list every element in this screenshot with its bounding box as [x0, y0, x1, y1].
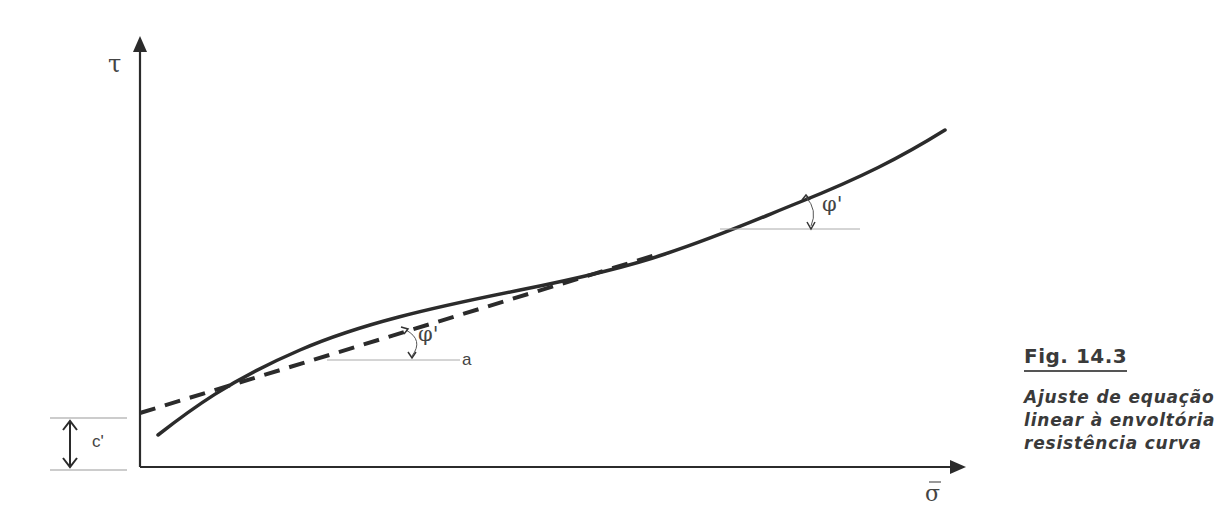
caption-line: Ajuste de equação [1024, 386, 1215, 409]
strength-envelope-curve [158, 130, 945, 435]
caption-line: linear à envoltória [1024, 409, 1215, 432]
figure-caption: Fig. 14.3 Ajuste de equação linear à env… [1024, 344, 1215, 455]
angle-upper-label: φ' [822, 192, 842, 216]
figure-caption-text: Ajuste de equação linear à envoltória re… [1024, 386, 1215, 455]
intercept-label: c' [92, 432, 104, 452]
angle-lower-subscript: a [462, 350, 471, 370]
y-axis-arrow-icon [133, 36, 147, 52]
x-axis-arrow-icon [950, 460, 966, 474]
y-axis [133, 36, 147, 467]
intercept-marker [50, 418, 127, 470]
angle-lower-label: φ' [418, 322, 438, 346]
figure-number: Fig. 14.3 [1024, 344, 1127, 372]
caption-line: resistência curva [1024, 432, 1215, 455]
x-axis-label: σ [925, 481, 940, 506]
x-axis [140, 460, 966, 474]
y-axis-label: τ [108, 50, 121, 78]
